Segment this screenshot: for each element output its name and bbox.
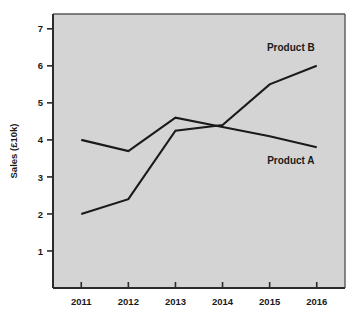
y-axis-tick-labels: 1234567 (38, 23, 44, 256)
y-tick-label: 6 (38, 60, 43, 71)
y-tick-label: 2 (38, 209, 43, 220)
x-tick-label: 2012 (118, 296, 139, 307)
series-annotation-product-a: Product A (267, 155, 314, 166)
y-tick-label: 4 (38, 134, 44, 145)
x-tick-label: 2015 (259, 296, 281, 307)
plot-area-background (53, 14, 345, 288)
x-tick-label: 2016 (306, 296, 327, 307)
y-axis-title: Sales (£10k) (8, 124, 19, 179)
x-tick-label: 2013 (165, 296, 186, 307)
x-tick-label: 2014 (212, 296, 234, 307)
chart-canvas: 1234567 201120122013201420152016 Product… (0, 0, 353, 320)
y-tick-label: 7 (38, 23, 43, 34)
y-tick-label: 5 (38, 97, 44, 108)
y-tick-label: 1 (38, 246, 44, 257)
y-tick-label: 3 (38, 172, 43, 183)
series-annotation-product-b: Product B (267, 42, 315, 53)
line-chart: 1234567 201120122013201420152016 Product… (0, 0, 353, 320)
x-tick-label: 2011 (71, 296, 92, 307)
x-axis-tick-labels: 201120122013201420152016 (71, 296, 327, 307)
